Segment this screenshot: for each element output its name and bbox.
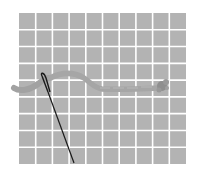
- embroidery-illustration: [0, 0, 197, 172]
